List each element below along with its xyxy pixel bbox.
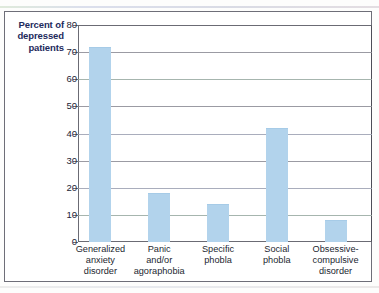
x-axis-label-line: phobla — [189, 255, 248, 266]
bar — [266, 128, 288, 242]
y-tick-label-30: 30 — [53, 156, 77, 166]
y-axis-title-line-2: depressed — [2, 30, 64, 41]
y-tick-label-70: 70 — [53, 47, 77, 57]
y-tick-label-50: 50 — [53, 101, 77, 111]
x-axis-label-line: agoraphobia — [130, 266, 189, 277]
x-axis-label-line: disorder — [306, 266, 365, 277]
bar — [148, 193, 170, 242]
x-axis-label-line: Obsessive- — [306, 244, 365, 255]
x-axis-label: Obsessive-compulsivedisorder — [306, 244, 365, 278]
y-tick-label-10: 10 — [53, 210, 77, 220]
x-axis-label: Specificphobla — [189, 244, 248, 266]
bar — [207, 204, 229, 242]
x-axis-labels-group: GeneralizedanxietydisorderPanicand/orago… — [78, 244, 372, 284]
x-axis-label-line: Social — [247, 244, 306, 255]
y-tick-label-80: 80 — [53, 20, 77, 30]
x-axis-label-line: disorder — [71, 266, 130, 277]
plot-area — [78, 25, 372, 242]
gridline-50 — [78, 106, 372, 107]
x-axis-label-line: Panic — [130, 244, 189, 255]
gridline-20 — [78, 188, 372, 189]
gridline-70 — [78, 52, 372, 53]
x-axis-label-line: phobla — [247, 255, 306, 266]
gridline-40 — [78, 134, 372, 135]
bar — [89, 47, 111, 242]
y-tick-label-20: 20 — [53, 183, 77, 193]
x-axis-label-line: Generalized — [71, 244, 130, 255]
x-axis-label-line: anxiety — [71, 255, 130, 266]
x-axis-label: Generalizedanxietydisorder — [71, 244, 130, 278]
y-tick-label-40: 40 — [53, 129, 77, 139]
x-axis-label: Panicand/oragoraphobia — [130, 244, 189, 278]
bar — [325, 220, 347, 242]
y-tick-label-60: 60 — [53, 74, 77, 84]
scan-artifact-band-bottom — [0, 286, 379, 288]
x-axis-label-line: Specific — [189, 244, 248, 255]
x-axis-label-line: compulsive — [306, 255, 365, 266]
gridline-30 — [78, 161, 372, 162]
x-axis-label-line: and/or — [130, 255, 189, 266]
x-axis-label: Socialphobla — [247, 244, 306, 266]
gridline-60 — [78, 79, 372, 80]
figure-root: Percent of depressed patients 0102030405… — [0, 0, 379, 293]
scan-artifact-band-top — [0, 6, 379, 8]
